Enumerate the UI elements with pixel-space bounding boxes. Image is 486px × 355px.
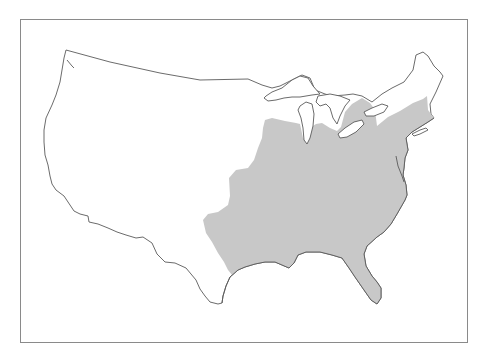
us-range-map — [0, 0, 486, 355]
